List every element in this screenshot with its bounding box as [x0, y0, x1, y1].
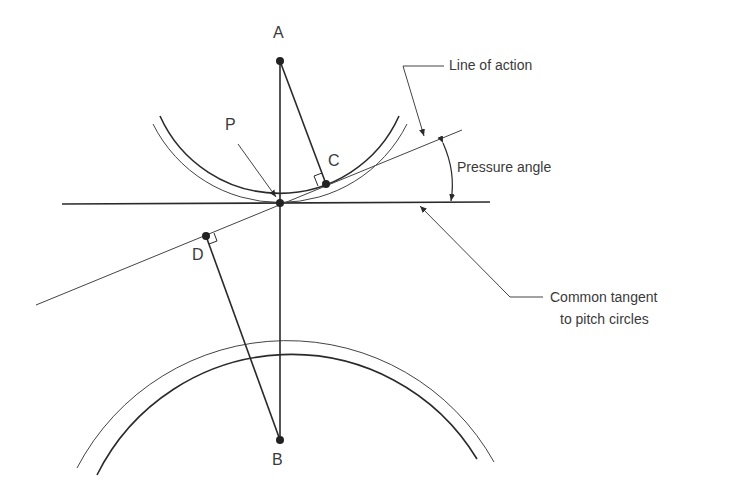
common-tangent-label-1: Common tangent [550, 288, 657, 307]
lower-pitch-circle [77, 341, 494, 468]
lower-base-circle [97, 354, 477, 475]
common-tangent-label-2: to pitch circles [560, 310, 649, 329]
line-of-action-label: Line of action [449, 56, 532, 75]
pressure-angle-arc [443, 143, 452, 201]
point-c-dot [322, 180, 330, 188]
line-of-action-leader [403, 66, 444, 136]
gear-diagram [0, 0, 740, 494]
point-d-dot [202, 232, 210, 240]
label-b: B [272, 451, 283, 469]
label-d: D [192, 246, 204, 264]
pressure-angle-label: Pressure angle [457, 158, 551, 177]
radius-b-d [206, 236, 280, 440]
radius-a-c [280, 61, 326, 184]
point-a-dot [276, 57, 284, 65]
label-p: P [225, 116, 236, 134]
right-angle-marker-c [314, 173, 322, 186]
label-c: C [328, 152, 340, 170]
point-p-dot [276, 199, 284, 207]
label-a: A [273, 24, 284, 42]
line-of-action [36, 130, 462, 305]
point-b-dot [276, 436, 284, 444]
right-angle-marker-d [209, 233, 217, 244]
common-tangent-leader [420, 206, 543, 297]
